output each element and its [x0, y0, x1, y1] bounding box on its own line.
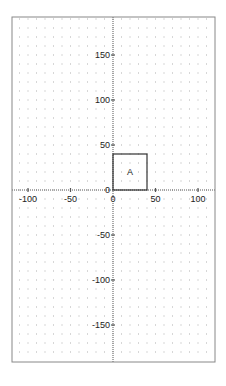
grid-dot	[53, 109, 54, 110]
grid-dot	[87, 334, 88, 335]
grid-dot	[53, 82, 54, 83]
grid-dot	[104, 136, 105, 137]
grid-dot	[62, 163, 63, 164]
grid-dot	[96, 226, 97, 227]
grid-dot	[172, 82, 173, 83]
grid-dot	[147, 244, 148, 245]
grid-dot	[19, 46, 20, 47]
grid-dot	[45, 307, 46, 308]
grid-dot	[104, 199, 105, 200]
grid-dot	[206, 73, 207, 74]
grid-dot	[138, 352, 139, 353]
grid-dot	[181, 127, 182, 128]
grid-dot	[96, 181, 97, 182]
grid-dot	[130, 199, 131, 200]
grid-dot	[19, 307, 20, 308]
grid-dot	[104, 208, 105, 209]
grid-dot	[147, 199, 148, 200]
grid-dot	[130, 298, 131, 299]
grid-dot	[104, 244, 105, 245]
grid-dot	[19, 226, 20, 227]
grid-dot	[206, 181, 207, 182]
grid-dot	[198, 244, 199, 245]
grid-dot	[53, 127, 54, 128]
grid-dot	[121, 73, 122, 74]
grid-dot	[53, 244, 54, 245]
grid-dot	[87, 136, 88, 137]
grid-dot	[104, 289, 105, 290]
grid-dot	[79, 19, 80, 20]
grid-dot	[96, 64, 97, 65]
grid-dot	[70, 244, 71, 245]
grid-dot	[147, 145, 148, 146]
grid-dot	[181, 298, 182, 299]
grid-dot	[172, 136, 173, 137]
grid-dot	[130, 307, 131, 308]
grid-dot	[62, 226, 63, 227]
grid-dot	[198, 172, 199, 173]
grid-dot	[164, 217, 165, 218]
grid-dot	[70, 127, 71, 128]
grid-dot	[70, 28, 71, 29]
grid-dot	[164, 28, 165, 29]
grid-dot	[138, 172, 139, 173]
grid-dot	[19, 172, 20, 173]
grid-dot	[87, 37, 88, 38]
grid-dot	[138, 46, 139, 47]
grid-dot	[121, 235, 122, 236]
grid-dot	[189, 145, 190, 146]
grid-dot	[121, 28, 122, 29]
grid-dot	[45, 46, 46, 47]
grid-dot	[189, 253, 190, 254]
grid-dot	[181, 217, 182, 218]
grid-dot	[19, 154, 20, 155]
grid-dot	[36, 19, 37, 20]
grid-dot	[138, 82, 139, 83]
grid-dot	[79, 136, 80, 137]
grid-dot	[181, 325, 182, 326]
grid-dot	[206, 325, 207, 326]
grid-dot	[70, 172, 71, 173]
shape-label: A	[127, 167, 133, 177]
grid-dot	[130, 19, 131, 20]
grid-dot	[87, 208, 88, 209]
grid-dot	[172, 172, 173, 173]
grid-dot	[87, 235, 88, 236]
grid-dot	[87, 109, 88, 110]
grid-dot	[138, 181, 139, 182]
grid-dot	[181, 163, 182, 164]
grid-dot	[155, 91, 156, 92]
rectangle-shape[interactable]: A	[113, 154, 147, 190]
y-tick-label: -100	[92, 275, 110, 285]
grid-dot	[62, 91, 63, 92]
grid-dot	[62, 100, 63, 101]
grid-dot	[19, 217, 20, 218]
grid-dot	[155, 298, 156, 299]
grid-dot	[87, 172, 88, 173]
grid-dot	[96, 109, 97, 110]
grid-dot	[121, 82, 122, 83]
grid-dot	[198, 64, 199, 65]
y-tick-label: 50	[100, 140, 110, 150]
grid-dot	[121, 46, 122, 47]
grid-dot	[189, 280, 190, 281]
grid-dot	[155, 28, 156, 29]
grid-dot	[155, 334, 156, 335]
grid-dot	[147, 217, 148, 218]
grid-dot	[189, 37, 190, 38]
grid-dot	[36, 55, 37, 56]
grid-dot	[79, 163, 80, 164]
grid-dot	[164, 181, 165, 182]
grid-dot	[36, 145, 37, 146]
grid-dot	[62, 334, 63, 335]
grid-dot	[138, 55, 139, 56]
grid-dot	[104, 82, 105, 83]
grid-dot	[121, 118, 122, 119]
grid-dot	[206, 289, 207, 290]
grid-dot	[181, 28, 182, 29]
grid-dot	[155, 181, 156, 182]
plot-canvas: -100-50050100150100500-50-100-150 A	[0, 0, 226, 386]
grid-dot	[96, 352, 97, 353]
grid-dot	[206, 19, 207, 20]
grid-dot	[181, 253, 182, 254]
